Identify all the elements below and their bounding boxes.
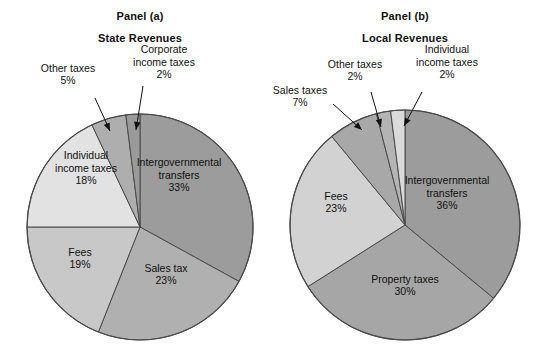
label-line: Individual: [425, 43, 469, 55]
label-line: income taxes: [133, 56, 195, 68]
callout-label-a-corporate-income-taxes: Corporateincome taxes2%: [89, 43, 239, 81]
label-line: Sales taxes: [273, 84, 327, 96]
callout-label-b-sales-taxes: Sales taxes7%: [225, 84, 375, 109]
label-line: 2%: [347, 70, 362, 82]
callout-label-b-individual-income-taxes: Individualincome taxes2%: [372, 43, 522, 81]
figure-canvas: Panel (a) State Revenues Panel (b) Local…: [0, 0, 542, 361]
label-line: 7%: [292, 96, 307, 108]
label-line: Corporate: [141, 43, 188, 55]
label-line: income taxes: [416, 56, 478, 68]
label-line: 5%: [60, 74, 75, 86]
label-line: Other taxes: [41, 62, 95, 74]
label-line: 2%: [156, 68, 171, 80]
label-line: 2%: [439, 68, 454, 80]
